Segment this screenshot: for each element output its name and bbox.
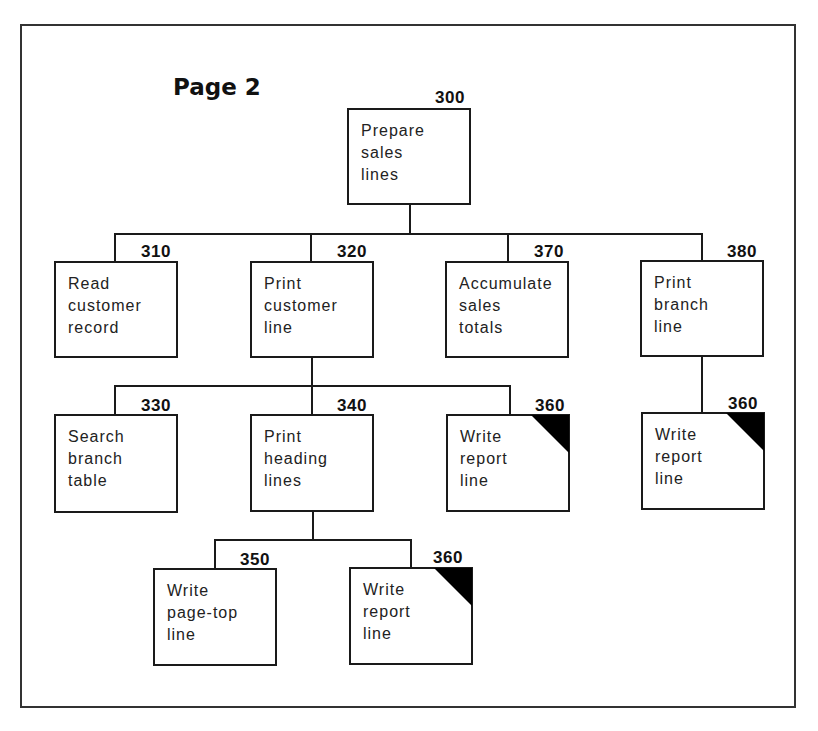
common-module-corner-icon — [531, 415, 569, 453]
module-label: Write report line — [363, 579, 411, 645]
connector — [701, 233, 703, 261]
module-label: Write report line — [655, 424, 703, 490]
module-label: Print branch line — [654, 272, 709, 338]
module-label: Print heading lines — [264, 426, 328, 492]
connector — [410, 539, 412, 569]
module-label: Search branch table — [68, 426, 125, 492]
connector — [701, 357, 703, 413]
module-box-340: Print heading lines — [250, 414, 374, 512]
module-number: 340 — [337, 396, 367, 416]
module-box-350: Write page-top line — [153, 568, 277, 666]
connector — [114, 385, 511, 387]
module-box-330: Search branch table — [54, 414, 178, 513]
module-box-320: Print customer line — [250, 261, 374, 358]
connector — [312, 511, 314, 540]
module-number: 360 — [433, 548, 463, 568]
module-box-360-common: Write report line — [349, 567, 473, 665]
module-number: 380 — [727, 242, 757, 262]
module-box-360-common: Write report line — [641, 412, 765, 510]
module-label: Write page-top line — [167, 580, 238, 646]
module-number: 370 — [534, 242, 564, 262]
module-label: Print customer line — [264, 273, 338, 339]
module-number: 330 — [141, 396, 171, 416]
module-box-370: Accumulate sales totals — [445, 261, 569, 358]
module-label: Prepare sales lines — [361, 120, 425, 186]
connector — [214, 539, 216, 569]
module-label: Write report line — [460, 426, 508, 492]
module-label: Accumulate sales totals — [459, 273, 553, 339]
module-number: 310 — [141, 242, 171, 262]
connector — [507, 233, 509, 261]
module-box-360-common: Write report line — [446, 414, 570, 512]
connector — [310, 233, 312, 261]
page-title: Page 2 — [173, 74, 261, 100]
module-number: 360 — [535, 396, 565, 416]
module-box-300: Prepare sales lines — [347, 108, 471, 205]
common-module-corner-icon — [434, 568, 472, 606]
module-number: 320 — [337, 242, 367, 262]
module-number: 360 — [728, 394, 758, 414]
module-box-380: Print branch line — [640, 260, 764, 357]
connector — [409, 204, 411, 234]
connector — [509, 385, 511, 414]
module-number: 300 — [435, 88, 465, 108]
module-box-310: Read customer record — [54, 261, 178, 358]
module-number: 350 — [240, 550, 270, 570]
connector — [114, 385, 116, 414]
connector — [114, 233, 703, 235]
common-module-corner-icon — [726, 413, 764, 451]
module-label: Read customer record — [68, 273, 142, 339]
connector — [214, 539, 412, 541]
connector — [114, 233, 116, 261]
